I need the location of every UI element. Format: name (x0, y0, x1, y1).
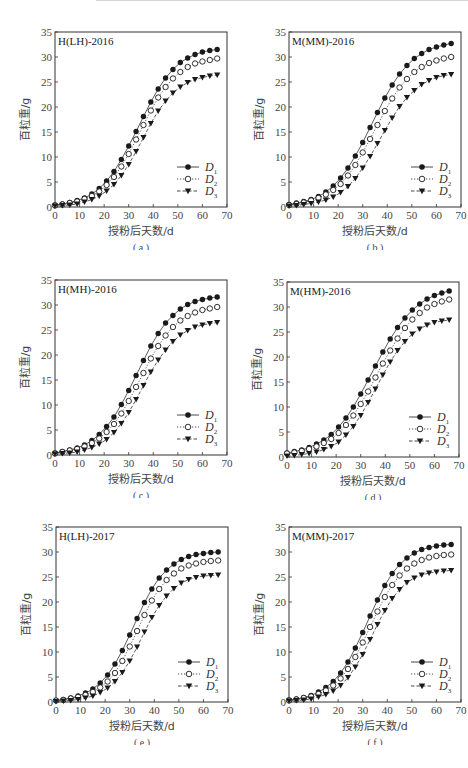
marker-filled-circle-icon (163, 75, 168, 80)
x-tick-label: 40 (382, 704, 394, 716)
marker-open-circle-icon (214, 56, 219, 61)
x-axis-label: 授粉后天数/d (109, 719, 175, 733)
marker-filled-circle-icon (410, 307, 415, 312)
marker-triangle-down-icon (374, 141, 380, 147)
y-tick-label: 15 (42, 621, 54, 633)
marker-triangle-down-icon (104, 686, 110, 692)
marker-open-circle-icon (382, 108, 387, 113)
marker-filled-circle-icon (105, 672, 110, 677)
marker-open-circle-icon (365, 389, 370, 394)
marker-triangle-down-icon (360, 652, 366, 658)
y-tick-label: 20 (275, 596, 287, 608)
marker-open-circle-icon (178, 318, 183, 323)
marker-open-circle-icon (367, 136, 372, 141)
y-tick-label: 20 (275, 101, 287, 113)
marker-filled-circle-icon (382, 583, 387, 588)
marker-filled-circle-icon (338, 670, 343, 675)
marker-open-circle-icon (126, 151, 131, 156)
y-tick-label: 20 (273, 351, 285, 363)
marker-triangle-down-icon (365, 400, 371, 406)
marker-triangle-down-icon (155, 109, 161, 115)
marker-filled-circle-icon (375, 597, 380, 602)
marker-filled-circle-icon (388, 336, 393, 341)
marker-filled-circle-icon (351, 404, 356, 409)
marker-open-circle-icon (410, 317, 415, 322)
marker-filled-circle-icon (207, 48, 212, 53)
x-tick-label: 50 (172, 457, 184, 469)
marker-filled-circle-icon (170, 313, 175, 318)
marker-triangle-down-icon (389, 596, 395, 602)
y-tick-label: 0 (279, 451, 285, 463)
marker-filled-circle-icon (404, 63, 409, 68)
marker-filled-circle-icon (192, 299, 197, 304)
x-tick-label: 20 (333, 209, 345, 221)
marker-open-circle-icon (321, 440, 326, 445)
plot-frame (55, 280, 227, 455)
marker-triangle-down-icon (352, 665, 358, 671)
marker-open-circle-icon (424, 305, 429, 310)
marker-filled-circle-icon (434, 543, 439, 548)
marker-triangle-down-icon (89, 197, 95, 203)
y-tick-label: 0 (47, 201, 53, 213)
marker-open-circle-icon (345, 173, 350, 178)
marker-open-circle-icon (133, 137, 138, 142)
marker-triangle-down-icon (148, 370, 154, 376)
marker-triangle-down-icon (330, 689, 336, 695)
marker-filled-circle-icon (185, 412, 191, 418)
x-axis-label: 授粉后天数/d (342, 719, 408, 733)
x-tick-label: 20 (99, 209, 111, 221)
y-axis-label: 百粒重/g (252, 593, 266, 637)
subplot-title: M(HM)-2016 (290, 285, 351, 298)
marker-open-circle-icon (200, 307, 205, 312)
y-tick-label: 20 (42, 596, 54, 608)
marker-triangle-down-icon (382, 128, 388, 134)
marker-filled-circle-icon (446, 288, 451, 293)
marker-open-circle-icon (360, 640, 365, 645)
y-tick-label: 0 (281, 696, 287, 708)
marker-filled-circle-icon (141, 358, 146, 363)
marker-open-circle-icon (170, 324, 175, 329)
subplot-e: 01020304050607005101520253035H(LH)-2017授… (1, 495, 235, 745)
marker-open-circle-icon (375, 609, 380, 614)
marker-open-circle-icon (201, 559, 206, 564)
x-tick-label: 30 (355, 459, 367, 471)
marker-filled-circle-icon (148, 343, 153, 348)
marker-open-circle-icon (141, 122, 146, 127)
marker-open-circle-icon (192, 310, 197, 315)
marker-open-circle-icon (314, 444, 319, 449)
marker-open-circle-icon (119, 164, 124, 169)
marker-open-circle-icon (434, 553, 439, 558)
y-tick-label: 30 (41, 51, 53, 63)
marker-open-circle-icon (105, 679, 110, 684)
marker-filled-circle-icon (365, 377, 370, 382)
marker-filled-circle-icon (179, 557, 184, 562)
marker-filled-circle-icon (434, 44, 439, 49)
x-tick-label: 30 (124, 704, 136, 716)
marker-triangle-down-icon (389, 116, 395, 122)
x-tick-label: 40 (148, 209, 160, 221)
marker-filled-circle-icon (156, 86, 161, 91)
marker-open-circle-icon (112, 670, 117, 675)
subplot-title: M(MM)-2017 (292, 530, 355, 543)
marker-open-circle-icon (186, 671, 192, 677)
marker-triangle-down-icon (394, 348, 400, 354)
marker-open-circle-icon (207, 57, 212, 62)
marker-triangle-down-icon (149, 615, 155, 621)
marker-triangle-down-icon (162, 348, 168, 354)
y-tick-label: 10 (41, 151, 53, 163)
marker-triangle-down-icon (417, 327, 423, 333)
marker-open-circle-icon (111, 174, 116, 179)
series-d1 (53, 549, 221, 703)
marker-triangle-down-icon (215, 573, 221, 579)
marker-filled-circle-icon (402, 315, 407, 320)
marker-open-circle-icon (186, 563, 191, 568)
series-d1 (52, 47, 220, 208)
marker-open-circle-icon (89, 440, 94, 445)
marker-triangle-down-icon (374, 622, 380, 628)
marker-triangle-down-icon (426, 78, 432, 84)
marker-open-circle-icon (432, 301, 437, 306)
x-axis-label: 授粉后天数/d (342, 224, 408, 238)
x-tick-label: 40 (148, 457, 160, 469)
subplot-title: H(LH)-2017 (59, 530, 115, 543)
marker-filled-circle-icon (127, 632, 132, 637)
